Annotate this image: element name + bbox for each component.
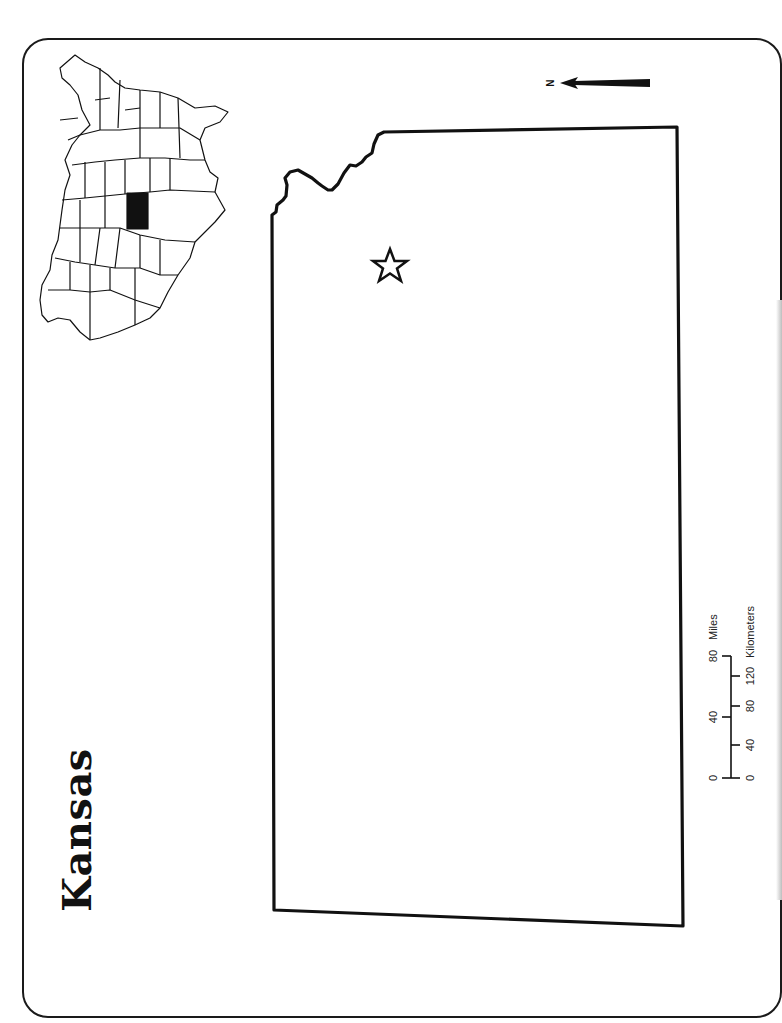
scale-km-tick-120: 120 <box>744 667 756 685</box>
map-title-text: Kansas <box>53 748 100 912</box>
scale-miles-tick-80: 80 <box>707 650 719 662</box>
scale-miles-label: Miles <box>707 614 719 640</box>
highlighted-state-kansas <box>127 193 148 229</box>
map-title: Kansas <box>26 700 126 960</box>
scale-km-tick-0: 0 <box>744 775 756 781</box>
scale-miles-tick-0: 0 <box>707 775 719 781</box>
us-inset-map <box>40 55 228 340</box>
north-label: N <box>545 79 556 86</box>
scale-miles-tick-40: 40 <box>707 711 719 723</box>
scale-km-label: Kilometers <box>744 606 756 658</box>
capital-star-icon <box>373 249 407 281</box>
state-outline <box>272 127 683 926</box>
scale-bar <box>722 656 740 778</box>
scale-km-tick-80: 80 <box>744 700 756 712</box>
north-arrow-icon <box>560 77 650 89</box>
scale-km-tick-40: 40 <box>744 739 756 751</box>
